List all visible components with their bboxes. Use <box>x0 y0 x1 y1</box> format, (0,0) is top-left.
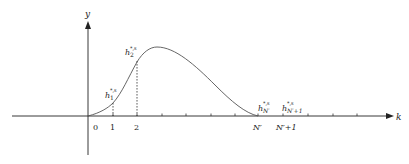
svg-text:*,s: *,s <box>130 45 137 51</box>
tick-label-0: 0 <box>93 123 98 132</box>
svg-text:2: 2 <box>130 51 134 58</box>
point-label-h2: h 2 *,s <box>125 45 137 58</box>
svg-text:1: 1 <box>110 94 114 101</box>
x-axis-arrow-icon <box>386 113 394 119</box>
svg-text:N′+1: N′+1 <box>286 107 302 114</box>
svg-text:N′: N′ <box>262 107 270 114</box>
point-label-h1: h 1 *,s <box>105 87 117 101</box>
svg-text:*,s: *,s <box>287 100 294 106</box>
tick-label-n-prime: N′ <box>252 123 262 132</box>
tick-label-2: 2 <box>134 123 139 132</box>
tick-label-n-prime-plus-1: N′+1 <box>275 123 297 132</box>
tick-label-1: 1 <box>110 123 115 132</box>
distribution-curve <box>88 47 258 116</box>
diagram-canvas: y k 0 1 2 N′ N′+1 h 1 *,s h 2 *,s h N′ *… <box>0 0 409 164</box>
x-axis-label: k <box>396 112 401 122</box>
svg-text:*,s: *,s <box>110 87 117 93</box>
point-label-hN-plus-1: h N′+1 *,s <box>282 100 302 114</box>
y-axis-label: y <box>84 9 91 19</box>
y-axis-arrow-icon <box>85 21 91 29</box>
point-label-hN: h N′ *,s <box>258 100 270 114</box>
svg-text:*,s: *,s <box>263 100 270 106</box>
